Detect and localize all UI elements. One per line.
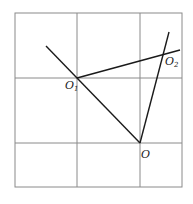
label-o2: O2 — [165, 55, 179, 69]
label-o1: O1 — [65, 79, 79, 93]
segment-o1-o — [46, 46, 140, 143]
label-o: O — [141, 148, 150, 161]
geometry-diagram: O1 O2 O — [0, 0, 193, 204]
segment-o-o2 — [140, 32, 169, 143]
point-labels: O1 O2 O — [65, 55, 179, 161]
